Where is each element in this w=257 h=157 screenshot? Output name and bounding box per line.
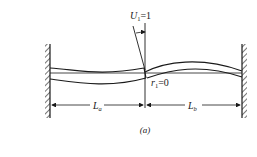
- span-b-label: Lb: [187, 100, 198, 112]
- left-fixed-support: [45, 44, 50, 118]
- rotation-arrow: [136, 32, 145, 33]
- span-a-top-edge: [50, 68, 144, 72]
- span-a-bottom-edge: [50, 78, 146, 84]
- left-wall-hatching: [45, 44, 50, 118]
- right-fixed-support: [242, 44, 247, 118]
- rotation-label-value: =1: [140, 10, 151, 21]
- span-b-label-subscript: b: [194, 105, 198, 112]
- span-a-label: La: [92, 100, 102, 112]
- rotation-label: U1=1: [130, 10, 151, 22]
- dimension-span-b: Lb: [147, 100, 240, 112]
- figure-caption: (a): [140, 125, 151, 135]
- beam-diagram: U1=1 r1=0 La Lb (a): [0, 0, 257, 157]
- right-wall-hatching: [242, 44, 247, 118]
- displacement-label-value: =0: [158, 77, 169, 88]
- deformed-beam-span-b: [145, 62, 242, 78]
- deformed-beam-span-a: [50, 68, 146, 84]
- span-a-label-subscript: a: [99, 105, 102, 112]
- displacement-label: r1=0: [151, 77, 169, 89]
- dimension-span-a: La: [52, 100, 143, 112]
- span-b-top-edge: [145, 62, 242, 72]
